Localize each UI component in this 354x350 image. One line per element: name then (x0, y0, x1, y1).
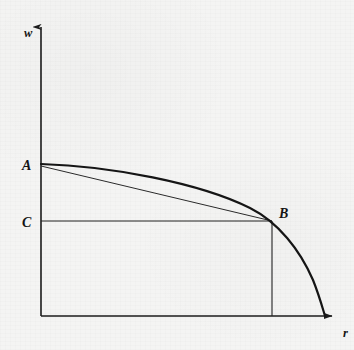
x-axis-label: r (343, 326, 348, 340)
wage-profit-frontier-plot: w r A C B (0, 0, 354, 350)
y-axis-label: w (24, 26, 33, 40)
point-label-c: C (22, 215, 32, 230)
chord-line-a-b (41, 166, 272, 221)
point-label-a: A (21, 158, 31, 173)
wage-profit-frontier-curve (41, 164, 325, 316)
economics-frontier-figure: w r A C B (0, 0, 354, 350)
rectangle-cb-dropline (41, 221, 272, 316)
point-label-b: B (278, 206, 288, 221)
